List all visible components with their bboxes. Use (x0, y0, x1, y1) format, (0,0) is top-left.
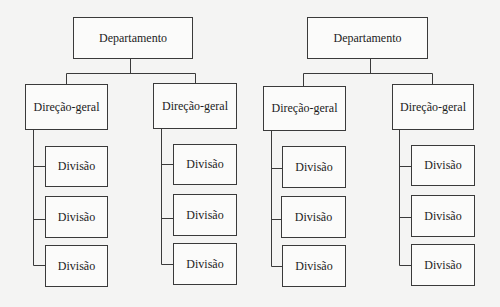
leaf-node: Divisão (282, 245, 346, 287)
node-label: Divisão (58, 159, 95, 174)
node-label: Divisão (295, 259, 332, 274)
node-label: Direção-geral (272, 101, 338, 116)
node-label: Departamento (99, 31, 167, 46)
node-label: Divisão (295, 210, 332, 225)
node-label: Direção-geral (400, 100, 466, 115)
node-label: Divisão (58, 259, 95, 274)
node-label: Divisão (186, 157, 223, 172)
org-chart-canvas: Departamento Direção-geral Direção-geral… (0, 0, 500, 307)
node-label: Divisão (186, 208, 223, 223)
leaf-node: Divisão (173, 243, 237, 285)
node-label: Divisão (424, 258, 461, 273)
node-label: Divisão (424, 158, 461, 173)
leaf-node: Divisão (45, 146, 108, 187)
root-node: Departamento (307, 17, 428, 59)
branch-node: Direção-geral (25, 84, 108, 130)
leaf-node: Divisão (411, 195, 475, 237)
leaf-node: Divisão (411, 145, 475, 186)
node-label: Divisão (424, 209, 461, 224)
node-label: Divisão (295, 160, 332, 175)
leaf-node: Divisão (281, 196, 346, 238)
leaf-node: Divisão (411, 244, 475, 286)
node-label: Departamento (334, 31, 402, 46)
leaf-node: Divisão (45, 196, 108, 238)
branch-node: Direção-geral (392, 84, 474, 130)
node-label: Direção-geral (162, 99, 228, 114)
leaf-node: Divisão (173, 144, 237, 185)
branch-node: Direção-geral (263, 86, 346, 131)
node-label: Direção-geral (34, 100, 100, 115)
branch-node: Direção-geral (153, 83, 237, 129)
root-node: Departamento (73, 17, 193, 59)
leaf-node: Divisão (282, 146, 346, 188)
leaf-node: Divisão (45, 245, 108, 287)
node-label: Divisão (186, 257, 223, 272)
node-label: Divisão (58, 210, 95, 225)
leaf-node: Divisão (173, 194, 237, 236)
